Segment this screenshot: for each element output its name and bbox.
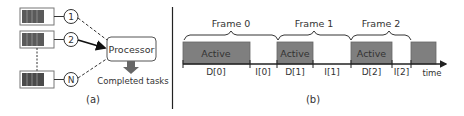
active-block-1: Active (277, 42, 313, 64)
i-label-0: I[0] (255, 67, 270, 77)
active-label-2: Active (357, 48, 387, 59)
i-label-2: I[2] (394, 67, 409, 77)
frame-brace-2: Frame 2 (351, 18, 411, 40)
panel-a: 1 2 N Pro (20, 8, 169, 105)
active-block-0: Active (183, 42, 250, 64)
frame-label-1: Frame 1 (295, 18, 334, 29)
active-block-2: Active (351, 42, 392, 64)
time-axis-label: time (422, 68, 441, 78)
completed-tasks-label: Completed tasks (97, 76, 169, 86)
connection-2-arrow (78, 40, 105, 48)
d-label-1: D[1] (285, 67, 305, 77)
figure: 1 2 N Pro (0, 0, 464, 116)
processor-label: Processor (109, 44, 155, 55)
queue-n: N (20, 71, 78, 88)
connection-1-dashed (78, 18, 107, 40)
queue-1: 1 (20, 8, 78, 25)
frame-brace-0: Frame 0 (184, 18, 281, 40)
active-label-1: Active (280, 48, 310, 59)
panel-b: Frame 0 Frame 1 Frame 2 Active Active Ac… (183, 18, 446, 105)
i-label-1: I[1] (324, 67, 339, 77)
queue-label-2: 2 (68, 35, 74, 45)
caption-b: (b) (306, 94, 320, 105)
caption-a: (a) (86, 94, 100, 105)
d-label-2: D[2] (362, 67, 382, 77)
active-block-next (411, 42, 436, 64)
queue-2: 2 (20, 31, 78, 48)
frame-label-2: Frame 2 (362, 18, 401, 29)
queue-label-n: N (68, 75, 75, 85)
output-arrow-icon (123, 61, 139, 74)
queue-label-1: 1 (68, 12, 74, 22)
frame-brace-1: Frame 1 (278, 18, 351, 40)
connection-n-dashed (78, 58, 108, 78)
d-label-0: D[0] (206, 67, 226, 77)
active-label-0: Active (201, 48, 231, 59)
frame-label-0: Frame 0 (212, 18, 251, 29)
